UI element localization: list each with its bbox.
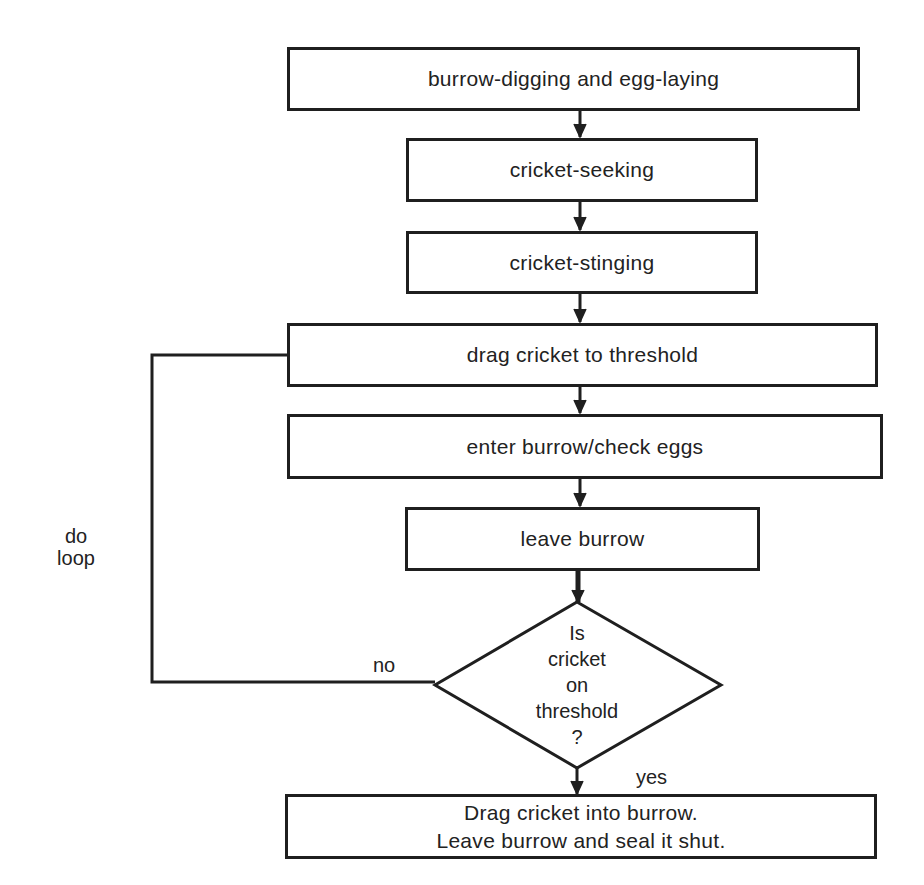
node-label: drag cricket to threshold [467, 340, 699, 370]
node-cricket-stinging: cricket-stinging [406, 231, 758, 294]
node-label: cricket-stinging [510, 248, 655, 278]
edge-label-yes: yes [636, 766, 667, 788]
node-label: cricket-seeking [510, 155, 655, 185]
do-loop-line1: do [48, 525, 104, 547]
node-label: enter burrow/check eggs [467, 432, 704, 462]
node-burrow-digging: burrow-digging and egg-laying [287, 47, 860, 111]
do-loop-label: do loop [48, 525, 104, 569]
node-cricket-seeking: cricket-seeking [406, 138, 758, 202]
node-label: burrow-digging and egg-laying [428, 64, 719, 94]
decision-line: ? [497, 724, 657, 750]
node-final: Drag cricket into burrow. Leave burrow a… [285, 794, 877, 859]
decision-line: threshold [497, 698, 657, 724]
decision-line: cricket [497, 646, 657, 672]
node-label: leave burrow [521, 524, 645, 554]
flowchart: burrow-digging and egg-laying cricket-se… [0, 0, 924, 885]
node-label-line2: Leave burrow and seal it shut. [436, 827, 725, 855]
edge-label-no: no [373, 654, 395, 676]
loop-line [152, 355, 435, 682]
node-drag-to-threshold: drag cricket to threshold [287, 323, 878, 387]
node-label-line1: Drag cricket into burrow. [464, 799, 698, 827]
decision-line: Is [497, 620, 657, 646]
decision-line: on [497, 672, 657, 698]
decision-text: Is cricket on threshold ? [497, 620, 657, 750]
do-loop-line2: loop [48, 547, 104, 569]
node-leave-burrow: leave burrow [405, 507, 760, 571]
node-enter-burrow: enter burrow/check eggs [287, 414, 883, 479]
